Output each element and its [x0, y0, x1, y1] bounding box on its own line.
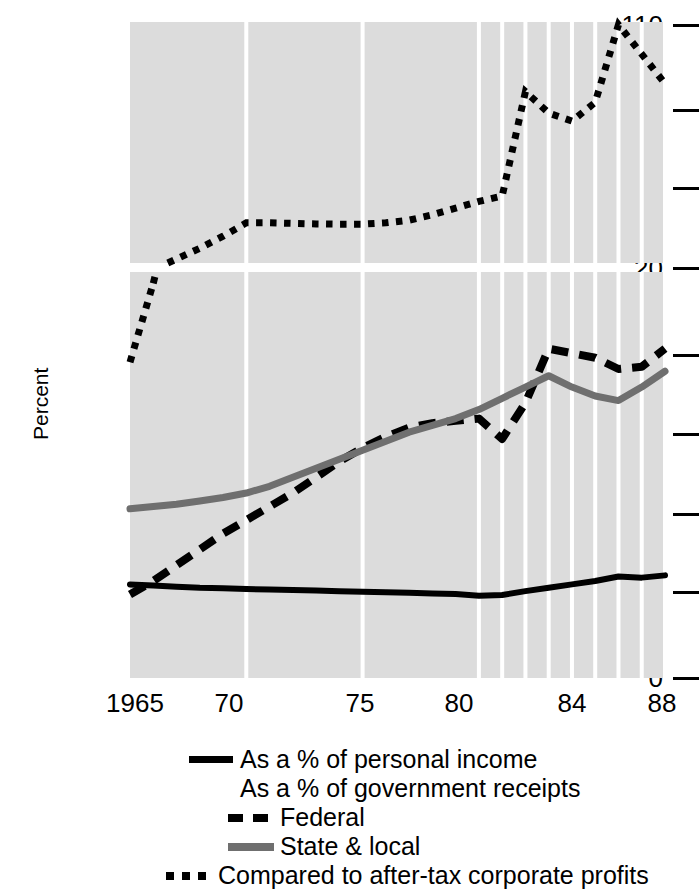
x-tick-88: 88 — [636, 690, 688, 716]
legend-row-federal: Federal — [0, 803, 699, 832]
dotted-line-swatch-icon — [166, 872, 212, 880]
lower-panel-background — [130, 272, 665, 678]
legend-row-corporate-profits: Compared to after-tax corporate profits — [0, 861, 699, 890]
legend-label-federal: Federal — [280, 805, 365, 830]
chart-figure: Percent 110 80 50 20 16 12 8 4 0 1965 70… — [0, 0, 699, 891]
dashed-line-swatch-icon — [228, 814, 274, 822]
x-tick-80: 80 — [433, 690, 485, 716]
x-tick-1965: 1965 — [90, 690, 180, 716]
legend-row-government-receipts: As a % of government receipts — [0, 774, 699, 803]
legend-label-corporate-profits: Compared to after-tax corporate profits — [218, 863, 649, 888]
legend-row-state-local: State & local — [0, 832, 699, 861]
legend-row-personal-income: As a % of personal income — [0, 745, 699, 774]
legend-key-solid — [182, 756, 240, 763]
x-tick-84: 84 — [546, 690, 598, 716]
x-tick-70: 70 — [203, 690, 255, 716]
plot-canvas — [0, 0, 699, 700]
legend-key-gray — [222, 843, 280, 851]
gray-line-swatch-icon — [228, 843, 274, 851]
legend-label-state-local: State & local — [280, 834, 420, 859]
no-swatch-icon — [188, 785, 234, 793]
legend-key-dashed — [222, 814, 280, 822]
chart-legend: As a % of personal income As a % of gove… — [0, 745, 699, 890]
legend-label-personal-income: As a % of personal income — [240, 747, 537, 772]
legend-key-dotted — [160, 872, 218, 880]
legend-key-none — [182, 785, 240, 793]
solid-line-swatch-icon — [189, 756, 233, 763]
legend-label-government-receipts: As a % of government receipts — [240, 776, 580, 801]
x-tick-75: 75 — [334, 690, 386, 716]
upper-panel-background — [130, 22, 665, 263]
